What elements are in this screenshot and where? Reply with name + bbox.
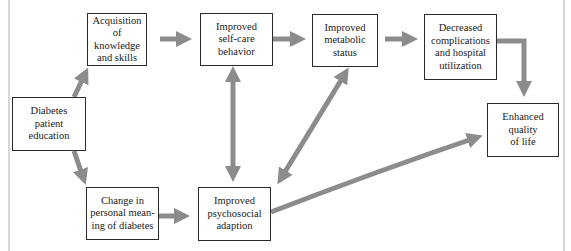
node-label: Improved metabolic status <box>324 22 365 60</box>
node-improved-metabolic-status: Improved metabolic status <box>312 14 378 67</box>
node-label: Acquisition of knowledge and skills <box>88 15 146 65</box>
node-change-in-personal-meaning: Change in personal mean- ing of diabetes <box>86 187 159 240</box>
arrow-education-to-knowledge <box>74 72 86 97</box>
node-diabetes-patient-education: Diabetes patient education <box>12 97 86 151</box>
arrow-education-to-meaning <box>74 151 84 180</box>
node-enhanced-quality-of-life: Enhanced quality of life <box>487 103 559 157</box>
arrow-complications-to-quality <box>497 41 524 92</box>
node-improved-psychosocial-adaption: Improved psychosocial adaption <box>198 187 271 241</box>
node-improved-self-care: Improved self-care behavior <box>200 13 273 66</box>
node-label: Change in personal mean- ing of diabetes <box>90 195 154 233</box>
node-label: Improved self-care behavior <box>216 21 257 59</box>
node-label: Diabetes patient education <box>29 105 70 143</box>
node-label: Enhanced quality of life <box>502 111 543 149</box>
node-label: Improved psychosocial adaption <box>207 195 261 233</box>
node-acquisition-of-knowledge: Acquisition of knowledge and skills <box>87 13 147 66</box>
arrow-metabolic-psychosocial <box>280 77 343 180</box>
node-label: Decreased complications and hospital uti… <box>431 22 490 72</box>
node-decreased-complications: Decreased complications and hospital uti… <box>424 14 497 80</box>
